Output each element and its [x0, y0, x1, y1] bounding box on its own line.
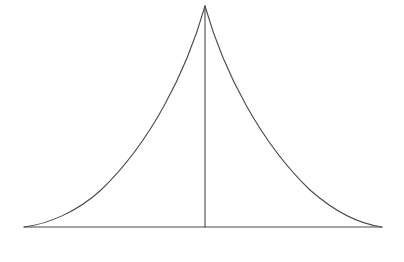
- figure-canvas: Concave-sided triangular tent figure wit…: [0, 0, 404, 262]
- figure-background: [0, 0, 404, 262]
- tent-figure-drawing: Concave-sided triangular tent figure wit…: [0, 0, 404, 262]
